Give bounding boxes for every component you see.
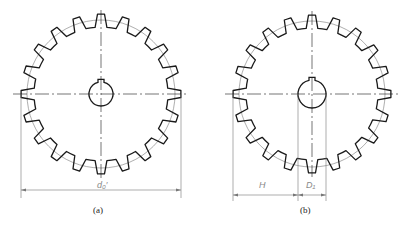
gear-drawings [0,0,403,228]
dimension-label-d1: D₁ [306,180,315,190]
dimension-label-h: H [259,180,266,190]
dimension-label-d0: d₀′ [97,180,108,190]
caption-b: (b) [300,205,311,215]
gear-measurement-figure: d₀′ (a) H D₁ (b) [0,0,403,228]
caption-a: (a) [93,205,103,215]
